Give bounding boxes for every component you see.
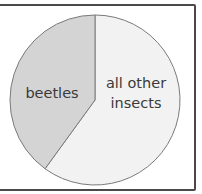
label-other-line1: all other [106, 75, 166, 91]
pie-chart: beetles all other insects [0, 0, 202, 194]
label-other-line2: insects [111, 95, 162, 111]
label-beetles: beetles [25, 85, 78, 101]
